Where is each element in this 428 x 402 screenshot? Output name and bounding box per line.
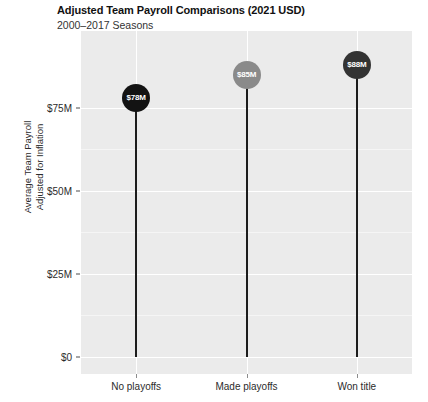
y-tick-mark (76, 357, 80, 358)
x-tick-label: Won title (297, 381, 417, 392)
data-point-marker[interactable]: $88M (343, 51, 371, 79)
data-point-marker[interactable]: $85M (233, 61, 261, 89)
chart-subtitle: 2000–2017 Seasons (57, 19, 153, 31)
x-tick-label: No playoffs (76, 381, 196, 392)
x-tick-mark (247, 374, 248, 378)
y-tick-mark (76, 273, 80, 274)
y-tick-label: $75M (12, 102, 72, 113)
y-tick-mark (76, 107, 80, 108)
lollipop-stem (356, 65, 358, 357)
y-tick-mark (76, 190, 80, 191)
data-point-marker[interactable]: $78M (122, 84, 150, 112)
x-tick-mark (357, 374, 358, 378)
x-tick-mark (136, 374, 137, 378)
plot-panel: $78M$85M$88M (81, 31, 412, 374)
chart-title: Adjusted Team Payroll Comparisons (2021 … (57, 4, 305, 16)
y-tick-label: $50M (12, 185, 72, 196)
y-tick-label: $0 (12, 352, 72, 363)
y-tick-label: $25M (12, 268, 72, 279)
x-tick-label: Made playoffs (187, 381, 307, 392)
lollipop-stem (135, 98, 137, 357)
lollipop-stem (246, 75, 248, 357)
